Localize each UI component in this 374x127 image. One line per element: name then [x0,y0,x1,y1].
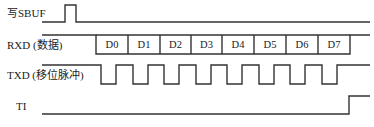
rxd-bit-d2: D2 [169,39,182,50]
rxd-bit-d6: D6 [296,39,309,50]
timing-diagram: D0 D1 D2 D3 D4 D5 D6 D7 [0,0,374,127]
rxd-bit-d1: D1 [138,39,151,50]
ti-waveform [42,96,370,114]
rxd-bit-d4: D4 [232,39,246,50]
rxd-bit-d5: D5 [264,39,277,50]
rxd-bit-d3: D3 [200,39,213,50]
rxd-bit-d7: D7 [328,39,341,50]
rxd-bit-d0: D0 [106,39,119,50]
txd-waveform [42,65,370,84]
sbuf-waveform [42,5,370,22]
